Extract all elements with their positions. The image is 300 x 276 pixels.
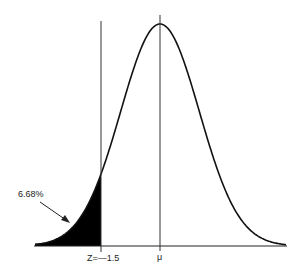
arrow-head-icon <box>61 215 70 223</box>
shaded-tail-area <box>35 174 101 246</box>
normal-distribution-diagram: Z=—1.5 μ 6.68% <box>0 0 300 276</box>
diagram-canvas: Z=—1.5 μ 6.68% <box>0 0 300 276</box>
percent-label: 6.68% <box>18 189 44 199</box>
mean-label: μ <box>157 252 162 262</box>
arrow-icon <box>40 202 66 220</box>
z-label: Z=—1.5 <box>87 253 119 263</box>
